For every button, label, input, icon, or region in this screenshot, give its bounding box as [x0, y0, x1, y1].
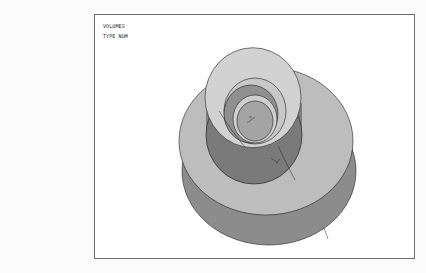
bore-floor	[237, 101, 273, 141]
ansys-figure-frame: VOLUMES TYPE NUM ry X	[94, 14, 415, 259]
svg-text:ry: ry	[249, 115, 252, 119]
volume-model-render: ry X	[95, 15, 416, 260]
svg-text:X: X	[276, 161, 278, 165]
